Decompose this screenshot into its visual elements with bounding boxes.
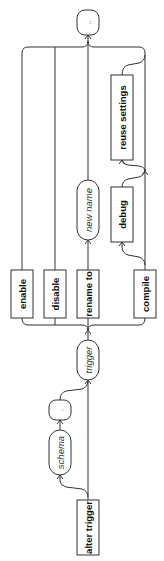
branch-rail-compile — [88, 318, 145, 330]
diagram-canvas: alter trigger schema . trigger enable di… — [0, 0, 164, 561]
keyword-alter-trigger-label: alter trigger — [83, 501, 94, 554]
reuse-branch — [122, 160, 145, 171]
keyword-debug-label: debug — [117, 200, 128, 229]
keyword-enable-label: enable — [17, 279, 28, 309]
keyword-disable-label: disable — [50, 278, 61, 311]
symbol-dot-label: . — [55, 409, 65, 412]
identifier-trigger-label: trigger — [83, 346, 94, 374]
dot-to-trigger-line — [60, 380, 88, 400]
debug-out — [122, 169, 145, 187]
keyword-rename-to-label: rename to — [83, 271, 94, 317]
railroad-diagram: alter trigger schema . trigger enable di… — [0, 0, 164, 561]
symbol-end-label: .. — [83, 20, 93, 25]
keyword-compile-label: compile — [140, 276, 151, 312]
reuse-out — [122, 55, 145, 75]
keyword-reuse-settings-label: reuse settings — [117, 85, 128, 149]
identifier-schema-label: schema — [55, 436, 66, 469]
schema-branch-line — [60, 475, 88, 497]
debug-branch — [122, 242, 145, 265]
identifier-new-name-label: new name — [83, 188, 94, 232]
